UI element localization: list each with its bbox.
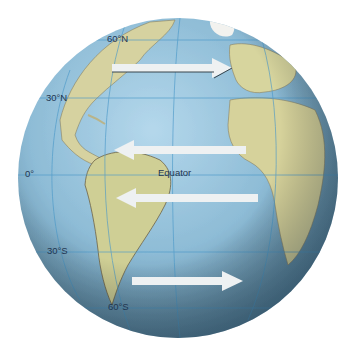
label-0: 0°: [25, 168, 34, 179]
label-30S: 30°S: [47, 245, 68, 256]
label-60N: 60°N: [107, 33, 128, 44]
label-30N: 30°N: [46, 92, 67, 103]
label-60S: 60°S: [108, 301, 129, 312]
equator-label: Equator: [158, 167, 191, 178]
globe-diagram: 60°N 30°N 0° 30°S 60°S Equator: [0, 0, 349, 338]
